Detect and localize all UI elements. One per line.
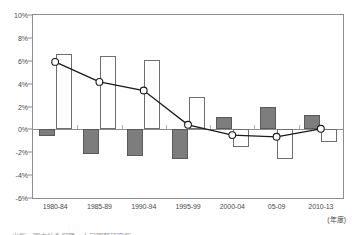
bar-white-1980-84 [56,54,72,129]
bar-gray-1990-94 [127,129,143,156]
y-axis-tick-label: 10% [0,12,28,19]
y-axis-tick-label: 4% [0,80,28,87]
x-axis-tick-label: 1990-94 [131,203,156,210]
x-axis-minor-tick [77,125,78,129]
chart-root: 10%8%6%4%2%0%-2%-4%-6% 1980-841985-89199… [0,0,352,235]
y-axis-tick-label: 2% [0,103,28,110]
x-axis-minor-tick [254,125,255,129]
y-axis-tick-label: 6% [0,57,28,64]
x-axis-tick-label: 1995-99 [176,203,201,210]
bar-white-05-09 [277,129,293,159]
x-axis-unit-label: (年度) [327,214,346,224]
plot-inner [33,15,343,198]
source-note: 出所：国立社会保障・人口問題研究所 [12,231,131,235]
x-axis-tick-label: 2000-04 [220,203,245,210]
y-axis-tick-label: -6% [0,195,28,202]
bar-white-1990-94 [144,60,160,129]
bar-gray-1995-99 [172,129,188,159]
bar-white-2010-13 [321,129,337,142]
bar-white-1995-99 [189,97,205,130]
zero-baseline [33,129,343,130]
y-axis-tick-label: 8% [0,34,28,41]
bar-gray-2010-13 [304,115,320,130]
x-axis-minor-tick [166,125,167,129]
x-axis-tick-label: 1985-89 [87,203,112,210]
bar-gray-1985-89 [83,129,99,154]
y-axis-tick-label: -4% [0,172,28,179]
bar-white-1985-89 [100,56,116,129]
bar-gray-1980-84 [39,129,55,135]
y-axis-tick-label: -2% [0,149,28,156]
bar-gray-2000-04 [216,117,232,130]
bar-white-2000-04 [233,129,249,147]
x-axis-minor-tick [210,125,211,129]
x-axis-tick-label: 2010-13 [308,203,333,210]
y-axis-tick-label: 0% [0,126,28,133]
plot-area [32,14,344,199]
x-axis-minor-tick [122,125,123,129]
x-axis-minor-tick [299,125,300,129]
bar-gray-05-09 [260,107,276,130]
x-axis-tick-label: 05-09 [268,203,285,210]
x-axis-tick-label: 1980-84 [43,203,68,210]
